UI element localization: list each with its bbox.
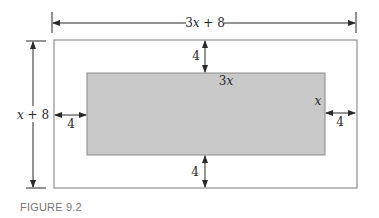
inner-width-label: 3x (219, 74, 234, 88)
inner-rectangle (87, 73, 325, 155)
bottom-margin-label: 4 (191, 165, 199, 179)
figure-diagram: 3x + 8 x + 8 4 4 4 4 3x x FIGURE 9.2 (0, 0, 379, 218)
left-margin-label: 4 (67, 117, 75, 131)
figure-caption: FIGURE 9.2 (20, 201, 82, 213)
outer-width-label: 3x + 8 (185, 16, 225, 30)
outer-height-dimension: x + 8 (17, 41, 50, 188)
inner-height-label: x (315, 94, 322, 108)
top-margin-label: 4 (192, 49, 200, 63)
outer-width-dimension: 3x + 8 (52, 12, 356, 33)
outer-height-label: x + 8 (17, 108, 49, 122)
right-margin-label: 4 (336, 115, 344, 129)
